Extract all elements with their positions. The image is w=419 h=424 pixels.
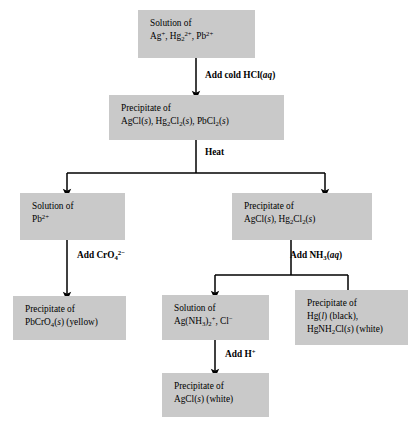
- box-lead-chromate: Precipitate of PbCrO4(s) (yellow): [13, 296, 126, 340]
- box-start-solution: Solution of Ag+, Hg22+, Pb2+: [138, 10, 255, 58]
- lead-chromate-line1: Precipitate of: [25, 303, 116, 316]
- label-add-ammonia: Add NH3(aq): [290, 250, 342, 260]
- chloride-precipitate-line1: Precipitate of: [121, 102, 274, 115]
- silver-ammine-line2: Ag(NH3)2+, Cl−: [174, 315, 259, 328]
- box-chloride-precipitate: Precipitate of AgCl(s), Hg2Cl2(s), PbCl2…: [109, 95, 284, 140]
- silver-mercury-line1: Precipitate of: [244, 200, 362, 213]
- start-solution-line1: Solution of: [150, 17, 245, 30]
- mercury-products-line1: Precipitate of: [307, 297, 398, 310]
- start-solution-line2: Ag+, Hg22+, Pb2+: [150, 30, 245, 43]
- label-add-chromate: Add CrO42−: [77, 250, 125, 260]
- label-add-acid: Add H+: [225, 349, 255, 359]
- silver-ammine-line1: Solution of: [174, 302, 259, 315]
- qualitative-analysis-flowchart: Solution of Ag+, Hg22+, Pb2+ Precipitate…: [0, 0, 419, 424]
- silver-chloride-final-line2: AgCl(s) (white): [174, 393, 259, 406]
- box-lead-solution: Solution of Pb2+: [20, 193, 125, 240]
- lead-chromate-line2: PbCrO4(s) (yellow): [25, 316, 116, 329]
- mercury-products-line3: HgNH2Cl(s) (white): [307, 323, 398, 336]
- silver-mercury-line2: AgCl(s), Hg2Cl2(s): [244, 213, 362, 226]
- mercury-products-line2: Hg(l) (black),: [307, 310, 398, 323]
- label-add-cold-hcl: Add cold HCl(aq): [205, 70, 275, 80]
- box-silver-mercury-precipitate: Precipitate of AgCl(s), Hg2Cl2(s): [232, 193, 372, 240]
- chloride-precipitate-line2: AgCl(s), Hg2Cl2(s), PbCl2(s): [121, 115, 274, 128]
- silver-chloride-final-line1: Precipitate of: [174, 380, 259, 393]
- label-heat: Heat: [205, 147, 224, 157]
- lead-solution-line2: Pb2+: [32, 213, 115, 226]
- box-silver-ammine-solution: Solution of Ag(NH3)2+, Cl−: [162, 295, 269, 340]
- box-mercury-products: Precipitate of Hg(l) (black), HgNH2Cl(s)…: [295, 290, 408, 345]
- box-silver-chloride-final: Precipitate of AgCl(s) (white): [162, 373, 269, 417]
- lead-solution-line1: Solution of: [32, 200, 115, 213]
